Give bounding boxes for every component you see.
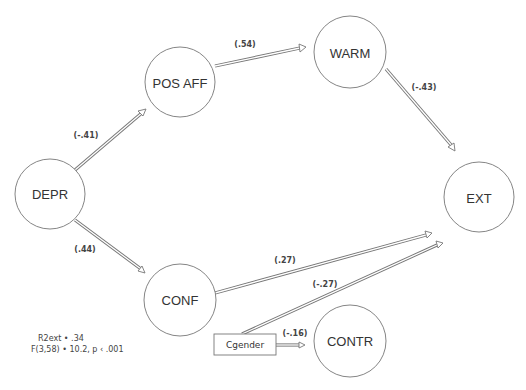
node-contr: CONTR (314, 305, 386, 377)
node-warm: WARM (314, 16, 386, 88)
arrow-posaff-warm (215, 44, 306, 66)
node-label-depr: DEPR (32, 187, 68, 202)
node-label-posaff: POS AFF (153, 76, 208, 91)
stats-r2: R2ext • .34 (38, 334, 84, 343)
arrow-warm-ext (386, 69, 455, 151)
node-cgender: Cgender (214, 334, 276, 355)
node-depr: DEPR (15, 159, 85, 229)
node-label-ext: EXT (466, 191, 491, 206)
coef-posaff-warm: (.54) (234, 40, 255, 49)
coef-conf-ext: (.27) (274, 256, 295, 265)
node-label-contr: CONTR (327, 334, 373, 349)
node-label-conf: CONF (162, 293, 199, 308)
node-label-warm: WARM (330, 46, 371, 61)
node-ext: EXT (444, 162, 514, 232)
arrow-depr-posaff (75, 109, 146, 170)
path-diagram: DEPR POS AFF WARM EXT CONF CONTR Cgender… (0, 0, 526, 390)
node-label-cgender: Cgender (226, 340, 264, 350)
coef-cgender-ext: (-.27) (313, 280, 338, 289)
coef-depr-conf: (.44) (74, 245, 95, 254)
coef-cgender-contr: (-.16) (283, 329, 308, 338)
coef-depr-posaff: (-.41) (74, 131, 99, 140)
coef-warm-ext: (-.43) (412, 83, 437, 92)
node-posaff: POS AFF (145, 47, 215, 117)
node-conf: CONF (144, 264, 216, 336)
stats-f-test: F(3,58) • 10.2, p ‹ .001 (31, 345, 124, 354)
arrow-cgender-contr (276, 342, 305, 348)
